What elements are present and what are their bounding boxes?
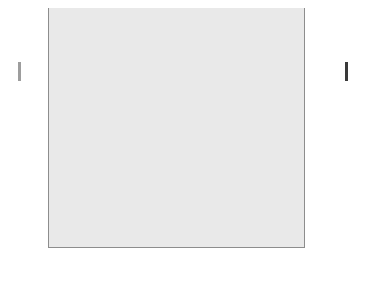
legend-swatch-prevalence <box>345 62 348 81</box>
chart-figure <box>0 0 366 292</box>
plot-area <box>48 8 305 248</box>
legend-swatch-incidence <box>18 62 21 81</box>
series-canvas <box>49 8 305 248</box>
